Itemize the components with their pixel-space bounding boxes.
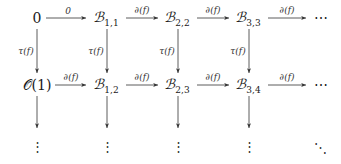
node-zero: 0 xyxy=(33,11,42,25)
label-zero-map: 0 xyxy=(65,6,71,16)
vdots-col2: ⋮ xyxy=(172,139,185,154)
label-partial-r1-2: ∂(f) xyxy=(205,5,220,15)
node-o-1: 𝒪(1) xyxy=(23,78,52,92)
node-ellipsis-row2: ⋯ xyxy=(314,78,328,92)
label-partial-r1-1: ∂(f) xyxy=(134,5,149,15)
node-b-3-3: ℬ3,3 xyxy=(235,10,260,28)
label-partial-r2-3: ∂(f) xyxy=(279,72,294,82)
label-partial-r2-0: ∂(f) xyxy=(63,72,78,82)
label-tau-0: τ(f) xyxy=(18,46,33,56)
node-b-3-4: ℬ3,4 xyxy=(235,77,260,95)
label-tau-3: τ(f) xyxy=(230,46,245,56)
node-b-1-2: ℬ1,2 xyxy=(93,77,118,95)
label-partial-r2-2: ∂(f) xyxy=(205,72,220,82)
ddots-corner: ⋱ xyxy=(314,140,327,155)
label-partial-r2-1: ∂(f) xyxy=(134,72,149,82)
label-partial-r1-3: ∂(f) xyxy=(279,5,294,15)
vdots-col0: ⋮ xyxy=(31,139,44,154)
vdots-col3: ⋮ xyxy=(243,139,256,154)
node-b-1-1: ℬ1,1 xyxy=(93,10,118,28)
label-tau-2: τ(f) xyxy=(159,46,174,56)
node-ellipsis-row1: ⋯ xyxy=(314,11,328,25)
vdots-col1: ⋮ xyxy=(101,139,114,154)
label-tau-1: τ(f) xyxy=(88,46,103,56)
node-b-2-2: ℬ2,2 xyxy=(164,10,189,28)
node-b-2-3: ℬ2,3 xyxy=(164,77,189,95)
